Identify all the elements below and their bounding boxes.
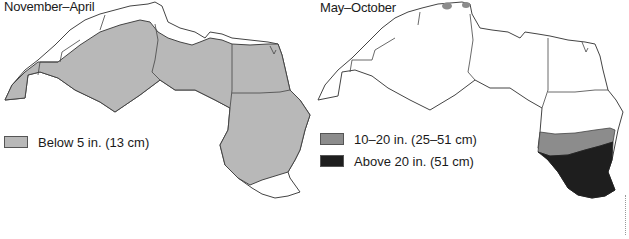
scan-edge-mark — [625, 195, 627, 235]
panel-title: May–October — [320, 0, 396, 15]
legend: 10–20 in. (25–51 cm) Above 20 in. (51 cm… — [320, 128, 477, 172]
legend-label: Below 5 in. (13 cm) — [38, 135, 149, 150]
legend-swatch — [320, 155, 344, 167]
region-north-patch-1 — [442, 3, 452, 10]
legend-item-below-5in: Below 5 in. (13 cm) — [4, 131, 149, 153]
legend-swatch — [320, 133, 344, 145]
legend-label: 10–20 in. (25–51 cm) — [354, 132, 477, 147]
legend-item-above-20in: Above 20 in. (51 cm) — [320, 150, 477, 172]
map-north-africa-november-april — [0, 0, 320, 239]
map-panel-november-april: November–April Below 5 in. (13 cm) — [0, 0, 320, 239]
legend-item-10-20in: 10–20 in. (25–51 cm) — [320, 128, 477, 150]
legend: Below 5 in. (13 cm) — [4, 131, 149, 153]
map-north-africa-may-october — [310, 0, 629, 239]
legend-label: Above 20 in. (51 cm) — [354, 154, 474, 169]
region-north-patch-2 — [462, 2, 470, 8]
map-panel-may-october: May–October 10–20 in. (25–51 cm) Above 2… — [310, 0, 629, 239]
panel-title: November–April — [4, 0, 94, 14]
legend-swatch — [4, 136, 28, 148]
